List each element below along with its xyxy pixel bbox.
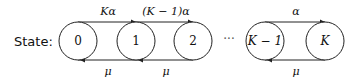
backward-edge-1-0: μ xyxy=(78,58,136,79)
forward-rate-label: (K − 1)α xyxy=(142,5,190,18)
state-node-label: 1 xyxy=(132,34,140,48)
state-node-1: 1 xyxy=(117,22,155,60)
forward-edge-0-1: Kα xyxy=(78,5,136,25)
backward-rate-label: μ xyxy=(104,65,111,78)
state-node-0: 0 xyxy=(59,22,97,60)
forward-rate-label: Kα xyxy=(99,5,116,18)
forward-edge-km1-k: α xyxy=(265,5,325,25)
backward-edge-2-1: μ xyxy=(136,58,193,79)
backward-rate-label: μ xyxy=(292,65,299,78)
markov-chain-diagram: State: Kα (K − 1)α α μ μ μ 0 1 xyxy=(0,0,360,81)
state-node-k: K xyxy=(306,22,344,60)
state-prefix-label: State: xyxy=(14,34,53,49)
ellipsis: ··· xyxy=(223,32,234,46)
state-node-2: 2 xyxy=(174,22,212,60)
state-node-k-minus-1: K − 1 xyxy=(246,22,284,60)
state-node-label: 0 xyxy=(74,34,82,48)
backward-rate-label: μ xyxy=(162,65,169,78)
backward-edge-k-km1: μ xyxy=(265,58,325,79)
state-node-label: K xyxy=(320,34,331,48)
forward-edge-1-2: (K − 1)α xyxy=(136,5,193,25)
state-node-label: K − 1 xyxy=(247,34,282,48)
state-node-label: 2 xyxy=(189,34,197,48)
forward-rate-label: α xyxy=(292,5,300,18)
